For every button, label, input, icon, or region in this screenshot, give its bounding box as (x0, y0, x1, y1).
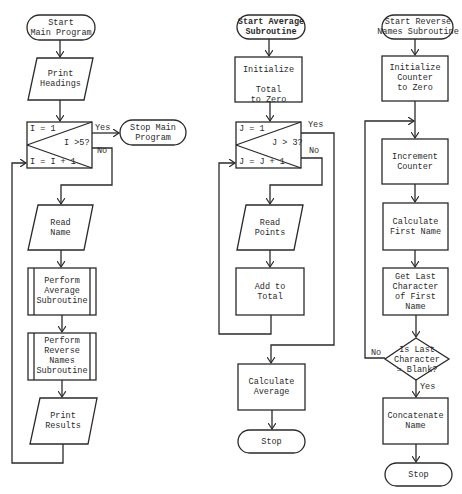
decision-yes-label: Yes (420, 382, 435, 392)
main-loop-increment-label: I = I + 1 (30, 157, 76, 167)
print-headings-label: Print Headings (28, 69, 93, 89)
print-results-label: Print Results (30, 411, 96, 431)
get-last-char-label: Get Last Character of First Name (383, 272, 448, 312)
stop-main-label: Stop Main Program (120, 123, 186, 143)
perform-average-label: Perform Average Subroutine (34, 276, 90, 306)
main-loop-no-label: No (97, 146, 107, 156)
initialize-counter-label: Initialize Counter to Zero (382, 63, 448, 93)
decision-no-label: No (371, 348, 381, 358)
main-loop-init-label: I = 1 (30, 124, 56, 134)
average-loop-yes-label: Yes (308, 120, 323, 130)
average-loop-test-label: J > 3? (272, 138, 303, 148)
increment-counter-label: Increment Counter (382, 152, 448, 172)
average-loop-no-label: No (309, 146, 319, 156)
calculate-average-label: Calculate Average (238, 377, 305, 397)
read-points-label: Read Points (237, 218, 303, 238)
start-average-label: Start Average Subroutine (234, 17, 308, 37)
start-reverse-label: Start Reverse Names Subroutine (377, 17, 459, 37)
add-to-total-label: Add to Total (236, 282, 304, 302)
read-name-label: Read Name (28, 218, 93, 238)
stop-average-label: Stop (238, 437, 305, 447)
main-loop-test-label: I >5? (64, 138, 90, 148)
initialize-total-label: Initialize Total to Zero (235, 65, 302, 105)
perform-reverse-label: Perform Reverse Names Subroutine (34, 336, 90, 376)
concatenate-name-label: Concatenate Name (383, 411, 448, 431)
stop-reverse-label: Stop (385, 470, 452, 480)
average-loop-init-label: J = 1 (239, 124, 265, 134)
calculate-first-name-label: Calculate First Name (383, 217, 448, 237)
main-loop-yes-label: Yes (95, 123, 110, 133)
decision-label: Is Last Character = Blank? (385, 345, 449, 375)
average-loop-increment-label: J = J + 1 (239, 157, 285, 167)
start-main-label: Start Main Program (27, 18, 95, 38)
